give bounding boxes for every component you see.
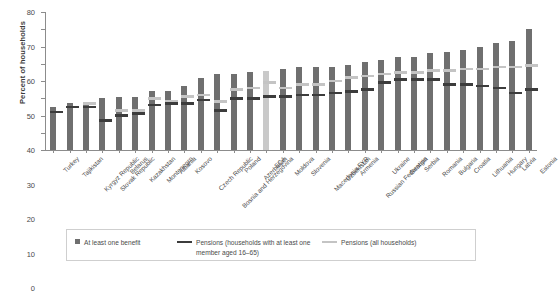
bar xyxy=(50,107,56,150)
x-axis-tick xyxy=(70,150,71,153)
bar xyxy=(231,74,237,150)
pensions-working-age-marker xyxy=(148,104,161,107)
pensions-all-households-marker xyxy=(329,80,342,83)
x-axis-tick xyxy=(135,150,136,153)
x-axis-tick xyxy=(447,150,448,153)
y-axis-tick-label: 10 xyxy=(27,249,35,258)
x-axis-label: Estonia xyxy=(538,155,558,175)
y-axis-tick: 40 xyxy=(41,81,45,82)
x-axis-tick xyxy=(234,150,235,153)
y-axis-tick-label: 40 xyxy=(27,146,35,155)
legend-item: Pensions (households with at least one m… xyxy=(177,238,312,257)
bar xyxy=(296,67,302,150)
bar xyxy=(477,47,483,151)
pensions-working-age-marker xyxy=(443,83,456,86)
pensions-working-age-marker xyxy=(66,106,79,109)
legend-label: Pensions (all households) xyxy=(341,238,417,248)
x-axis-label: Kosovo xyxy=(194,155,214,175)
x-axis-tick xyxy=(529,150,530,153)
bar xyxy=(149,91,155,150)
bar xyxy=(99,98,105,150)
pensions-working-age-marker xyxy=(378,81,391,84)
x-axis-tick xyxy=(184,150,185,153)
x-axis-label: Turkey xyxy=(62,155,81,174)
bar xyxy=(493,43,499,150)
y-axis-tick-label: 50 xyxy=(27,111,35,120)
legend-label: At least one benefit xyxy=(84,238,140,248)
legend-item: At least one benefit xyxy=(75,238,140,248)
y-axis-tick: 50 xyxy=(41,64,45,65)
bar xyxy=(132,97,138,150)
pensions-working-age-marker xyxy=(427,78,440,81)
y-axis-tick-label: 30 xyxy=(27,180,35,189)
pensions-all-households-marker xyxy=(361,75,374,78)
bar xyxy=(427,53,433,150)
y-axis-tick: 70 xyxy=(41,29,45,30)
x-axis-tick xyxy=(152,150,153,153)
pensions-working-age-marker xyxy=(361,88,374,91)
pensions-working-age-marker xyxy=(181,102,194,105)
y-axis-tick: 60 xyxy=(41,47,45,48)
x-axis-tick xyxy=(217,150,218,153)
pensions-working-age-marker xyxy=(329,92,342,95)
y-axis-title: Percent of households xyxy=(18,3,27,123)
chart-legend: At least one benefitPensions (households… xyxy=(66,229,476,261)
pensions-working-age-marker xyxy=(509,92,522,95)
pensions-working-age-marker xyxy=(345,90,358,93)
pensions-all-households-marker xyxy=(115,109,128,112)
pensions-working-age-marker xyxy=(312,94,325,97)
legend-square-swatch xyxy=(75,239,80,244)
y-axis-tick-label: 0 xyxy=(31,284,35,293)
x-axis-tick xyxy=(283,150,284,153)
pensions-working-age-marker xyxy=(394,78,407,81)
pensions-all-households-marker xyxy=(132,109,145,112)
legend-item: Pensions (all households) xyxy=(322,238,472,248)
x-axis-tick xyxy=(480,150,481,153)
x-axis-tick xyxy=(119,150,120,153)
x-axis-tick xyxy=(102,150,103,153)
bar xyxy=(313,67,319,150)
bar xyxy=(280,69,286,150)
y-axis-line xyxy=(45,12,46,150)
pensions-all-households-marker xyxy=(509,66,522,69)
pensions-all-households-marker xyxy=(345,76,358,79)
pensions-working-age-marker xyxy=(460,83,473,86)
bar xyxy=(460,50,466,150)
bar xyxy=(83,103,89,150)
pensions-all-households-marker xyxy=(214,100,227,103)
x-axis-tick xyxy=(86,150,87,153)
bar xyxy=(509,41,515,150)
pensions-working-age-marker xyxy=(132,112,145,115)
legend-line-swatch xyxy=(177,241,192,243)
pensions-working-age-marker xyxy=(165,102,178,105)
pensions-all-households-marker xyxy=(427,69,440,72)
pensions-working-age-marker xyxy=(476,85,489,88)
bar xyxy=(247,72,253,150)
pensions-all-households-marker xyxy=(460,68,473,71)
pensions-working-age-marker xyxy=(230,97,243,100)
x-axis-tick xyxy=(430,150,431,153)
x-axis-tick xyxy=(316,150,317,153)
pensions-all-households-marker xyxy=(476,68,489,71)
pensions-working-age-marker xyxy=(247,97,260,100)
pensions-working-age-marker xyxy=(214,109,227,112)
x-axis-tick xyxy=(299,150,300,153)
y-axis-tick-label: 20 xyxy=(27,215,35,224)
x-axis-tick xyxy=(53,150,54,153)
pensions-all-households-marker xyxy=(148,97,161,100)
bar xyxy=(198,78,204,150)
pensions-all-households-marker xyxy=(312,83,325,86)
pensions-all-households-marker xyxy=(230,88,243,91)
pensions-working-age-marker xyxy=(525,88,538,91)
pensions-all-households-marker xyxy=(83,102,96,105)
pensions-working-age-marker xyxy=(263,95,276,98)
y-axis-tick-label: 70 xyxy=(27,42,35,51)
y-axis-tick: 80 xyxy=(41,12,45,13)
bar xyxy=(214,74,220,150)
x-axis-tick xyxy=(512,150,513,153)
x-axis-tick xyxy=(463,150,464,153)
y-axis-tick: 10 xyxy=(41,133,45,134)
y-axis-tick: 30 xyxy=(41,98,45,99)
x-axis-tick xyxy=(381,150,382,153)
